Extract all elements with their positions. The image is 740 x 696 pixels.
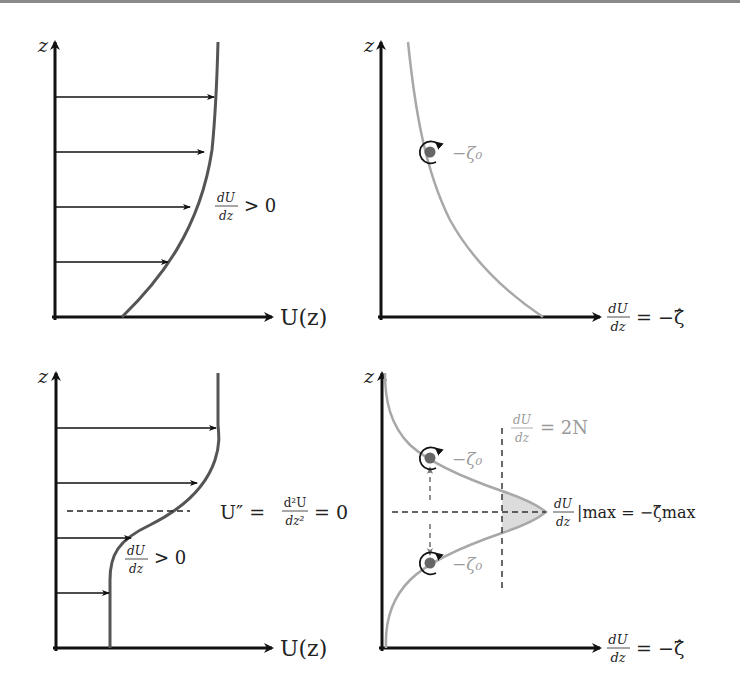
tanh-velocity-profile [110,373,219,648]
u-axis-label: U(z) [280,636,327,661]
shear-axis-label: dU dz = −ζ̂ [607,632,684,665]
threshold-label: dU dz = 2N [511,413,588,445]
svg-text:dU: dU [608,632,628,647]
svg-text:dz: dz [610,319,625,334]
panel-top-right: z −ζ₀ dU dz = −ζ̂ [363,34,684,334]
svg-text:dU: dU [554,497,573,511]
shear-axis-label: dU dz = −ζ̂ [607,301,684,334]
vortex-icon-upper [420,447,438,469]
svg-text:> 0: > 0 [244,195,276,216]
panel-bottom-right: z −ζ₀ −ζ₀ dU dz = 2N dU [363,365,696,665]
svg-text:= 2N: = 2N [540,417,588,438]
svg-text:|max = −ζ̂max: |max = −ζ̂max [577,503,696,522]
z-axis-label: z [37,34,49,56]
svg-text:dU: dU [513,413,532,427]
svg-text:= −ζ̂: = −ζ̂ [636,637,684,659]
panel-top-left: z U(z) dU dz > 0 [37,34,327,330]
vortex-label-lower: −ζ₀ [452,554,482,574]
svg-text:U″ =: U″ = [220,501,265,523]
svg-text:= −ζ̂: = −ζ̂ [636,306,684,328]
max-shear-label: dU dz |max = −ζ̂max [553,497,696,529]
svg-text:dU: dU [127,544,146,558]
shear-curve [408,42,543,317]
z-axis-label: z [363,34,375,56]
vortex-label: −ζ₀ [452,143,482,163]
svg-text:dz: dz [129,562,144,576]
svg-text:dU: dU [608,301,628,316]
svg-text:dz: dz [610,650,625,665]
svg-text:> 0: > 0 [154,547,186,568]
panel-bottom-left: z U(z) U″ = d²U dz² = 0 dU dz > 0 [37,365,348,661]
z-axis-label: z [37,365,49,387]
vortex-label-upper: −ζ₀ [452,449,482,469]
svg-text:d²U: d²U [284,496,307,510]
shear-positive-annotation: dU dz > 0 [125,544,186,576]
svg-text:= 0: = 0 [314,501,348,523]
svg-text:dz: dz [515,431,530,445]
z-axis-label: z [363,365,375,387]
vortex-icon-lower [420,552,438,574]
inflection-label: U″ = d²U dz² = 0 [220,496,348,528]
svg-text:dz: dz [556,515,571,529]
u-axis-label: U(z) [280,305,327,330]
velocity-profile-curve [122,42,218,317]
svg-text:dz: dz [219,209,234,223]
shear-positive-annotation: dU dz > 0 [215,191,276,223]
shear-profile-diagram: z U(z) dU dz > 0 z −ζ₀ dU [0,0,740,696]
svg-text:dU: dU [217,191,236,205]
svg-text:dz²: dz² [286,514,305,528]
